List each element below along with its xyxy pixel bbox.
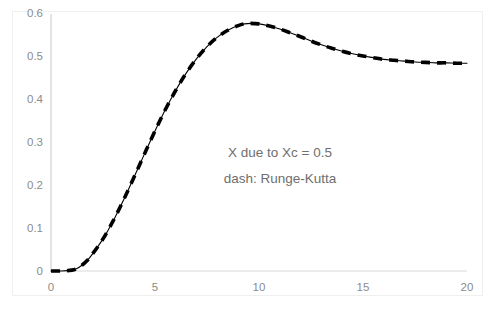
- x-tick-label-0: 0: [31, 282, 71, 294]
- y-tick-label-3: 0.3: [9, 137, 43, 149]
- chart-container: 0 0.1 0.2 0.3 0.4 0.5 0.6 0 5 10 15 20 X…: [0, 0, 496, 318]
- y-tick-label-1: 0.1: [9, 223, 43, 235]
- annotation-line-1: X due to Xc = 0.5: [180, 140, 380, 166]
- y-tick-label-0: 0: [9, 266, 43, 278]
- y-tick-label-2: 0.2: [9, 180, 43, 192]
- x-tick-label-4: 20: [447, 282, 487, 294]
- y-tick-label-5: 0.5: [9, 51, 43, 63]
- y-tick-label-6: 0.6: [9, 8, 43, 20]
- annotation-line-2: dash: Runge-Kutta: [180, 166, 380, 192]
- x-tick-label-2: 10: [239, 282, 279, 294]
- y-tick-label-4: 0.4: [9, 94, 43, 106]
- x-tick-label-3: 15: [343, 282, 383, 294]
- x-tick-label-1: 5: [135, 282, 175, 294]
- chart-annotation: X due to Xc = 0.5 dash: Runge-Kutta: [180, 140, 380, 193]
